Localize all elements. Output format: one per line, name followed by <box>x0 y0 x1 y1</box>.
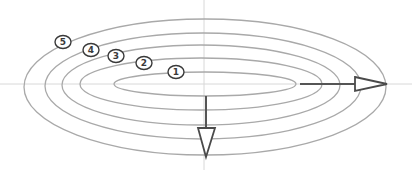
contour-label-2: 2 <box>136 57 152 70</box>
contour-diagram: 54321 <box>0 0 412 170</box>
contour-label-1: 1 <box>168 66 184 79</box>
horizontal-arrow <box>300 77 387 91</box>
label-number: 2 <box>141 58 147 68</box>
arrow-down-icon <box>198 128 215 157</box>
contour-label-3: 3 <box>108 50 124 63</box>
label-number: 4 <box>88 45 94 55</box>
contour-ellipse-3 <box>62 45 340 125</box>
vertical-arrow <box>198 96 215 157</box>
arrow-right-icon <box>355 77 387 91</box>
contour-label-4: 4 <box>83 44 99 57</box>
label-number: 5 <box>60 37 66 47</box>
contour-labels: 54321 <box>55 36 184 79</box>
label-number: 3 <box>113 51 119 61</box>
contour-label-5: 5 <box>55 36 71 49</box>
label-number: 1 <box>173 67 179 77</box>
direction-arrows <box>198 77 387 157</box>
